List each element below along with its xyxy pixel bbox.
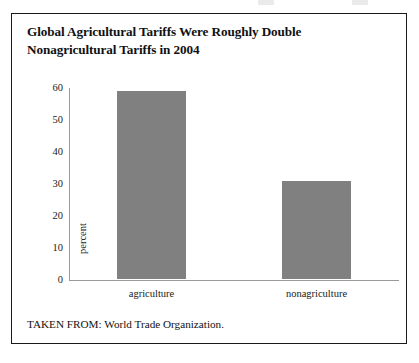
y-axis-title: percent xyxy=(77,223,88,254)
y-axis-tick-label: 20 xyxy=(33,211,63,221)
chart-title-line-1: Global Agricultural Tariffs Were Roughly… xyxy=(27,23,379,41)
y-axis-tick-label: 10 xyxy=(33,243,63,253)
bar-agriculture xyxy=(117,91,186,279)
source-note: TAKEN FROM: World Trade Organization. xyxy=(27,318,224,330)
y-axis-tick-label: 0 xyxy=(33,275,63,285)
y-axis-tick-label: 30 xyxy=(33,179,63,189)
x-axis-category-label: agriculture xyxy=(69,288,234,299)
y-axis-line xyxy=(69,88,70,281)
figure-box: Global Agricultural Tariffs Were Roughly… xyxy=(11,13,407,344)
y-axis-tick-labels: 6050403020100 xyxy=(29,88,63,280)
x-axis-line xyxy=(69,280,399,281)
plot-area: 6050403020100 percent agriculturenonagri… xyxy=(69,88,399,280)
page-edge-artifact xyxy=(0,0,419,11)
bar-nonagriculture xyxy=(282,181,351,279)
x-axis-category-label: nonagriculture xyxy=(234,288,399,299)
chart-title-line-2: Nonagricultural Tariffs in 2004 xyxy=(27,41,379,59)
y-axis-tick-label: 40 xyxy=(33,147,63,157)
y-axis-tick-label: 60 xyxy=(33,83,63,93)
chart-title: Global Agricultural Tariffs Were Roughly… xyxy=(27,23,379,58)
y-axis-tick-label: 50 xyxy=(33,115,63,125)
